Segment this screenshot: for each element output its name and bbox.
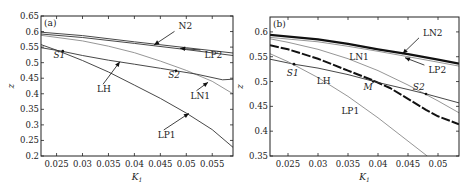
- curve-label-s2: S2: [413, 82, 425, 92]
- y-tick-label: 0.35: [20, 104, 39, 114]
- curve-label-ln1: LN1: [349, 52, 369, 62]
- curve-label-s1: S1: [53, 50, 65, 60]
- figure: 0.0250.030.0350.040.0450.050.0550.20.250…: [0, 0, 472, 192]
- y-axis-label: z: [6, 83, 16, 89]
- x-tick-label: 0.05: [177, 159, 196, 169]
- x-tick-label: 0.04: [125, 159, 144, 169]
- y-tick-label: 0.65: [20, 11, 39, 21]
- x-tick-label: 0.035: [96, 159, 120, 169]
- y-tick-label: 0.35: [249, 151, 268, 161]
- y-axis-label: z: [235, 84, 245, 90]
- x-axis-label: K1: [131, 172, 143, 183]
- point-s2: [425, 93, 428, 96]
- curve-label-s1: S1: [287, 68, 299, 78]
- curve-label-lp2: LP2: [428, 65, 446, 75]
- x-tick-label: 0.045: [148, 159, 172, 169]
- curve-label-s2: S2: [168, 70, 180, 80]
- y-tick-label: 0.4: [25, 89, 39, 99]
- x-tick-label: 0.03: [73, 159, 92, 169]
- y-tick-label: 0.3: [25, 120, 39, 130]
- x-tick-label: 0.05: [429, 159, 448, 169]
- curve-label-lp1: LP1: [341, 106, 359, 116]
- curve-label-lh: LH: [97, 84, 111, 94]
- y-tick-label: 0.55: [20, 42, 39, 52]
- curve-label-ln2: LN2: [423, 28, 443, 38]
- y-tick-label: 0.5: [254, 77, 268, 87]
- y-tick-label: 0.5: [25, 58, 39, 68]
- x-tick-label: 0.025: [276, 159, 300, 169]
- panel-label: (b): [273, 19, 286, 29]
- curve-label-lh: LH: [317, 76, 331, 86]
- arrowhead-icon: [115, 62, 120, 67]
- curve-label-n2: N2: [179, 21, 193, 31]
- x-tick-label: 0.04: [369, 159, 388, 169]
- y-tick-label: 0.45: [20, 73, 39, 83]
- panel-a: 0.0250.030.0350.040.0450.050.0550.20.250…: [6, 11, 233, 183]
- x-tick-label: 0.025: [44, 159, 68, 169]
- arrowhead-icon: [405, 57, 410, 61]
- chart-canvas: 0.0250.030.0350.040.0450.050.0550.20.250…: [0, 0, 472, 192]
- x-tick-label: 0.055: [200, 159, 224, 169]
- y-tick-label: 0.45: [249, 101, 268, 111]
- y-tick-label: 0.25: [20, 135, 39, 145]
- arrowhead-icon: [203, 82, 208, 87]
- curve-label-ln1: LN1: [190, 91, 210, 101]
- curve-label-m: M: [363, 82, 374, 92]
- x-tick-label: 0.035: [336, 159, 360, 169]
- x-tick-label: 0.03: [309, 159, 328, 169]
- arrowhead-icon: [184, 113, 189, 118]
- curve-label-lp1: LP1: [158, 130, 176, 140]
- panel-label: (a): [44, 18, 56, 28]
- x-tick-label: 0.045: [396, 159, 420, 169]
- point-s1: [293, 63, 296, 66]
- y-tick-label: 0.4: [254, 126, 268, 136]
- curve-label-lp2: LP2: [204, 50, 222, 60]
- y-tick-label: 0.6: [25, 27, 39, 37]
- panel-b: 0.0250.030.0350.040.0450.050.350.40.450.…: [235, 17, 459, 183]
- y-tick-label: 0.2: [25, 151, 39, 161]
- y-tick-label: 0.55: [249, 52, 268, 62]
- x-axis-label: K1: [358, 172, 370, 183]
- y-tick-label: 0.6: [254, 27, 268, 37]
